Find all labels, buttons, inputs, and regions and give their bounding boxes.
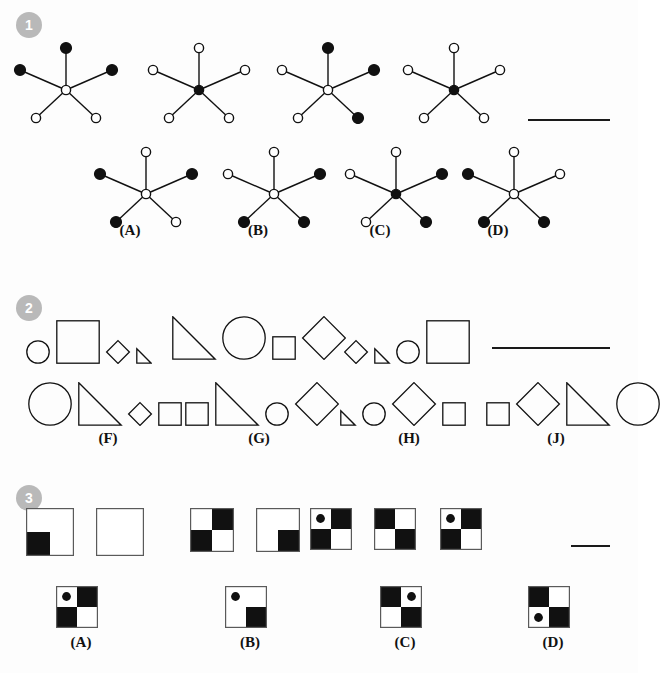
q2-option-g[interactable] bbox=[185, 382, 339, 426]
q1-option-c-label: (C) bbox=[357, 222, 403, 239]
q1-option-b[interactable] bbox=[218, 142, 330, 228]
pair-1-second bbox=[96, 508, 144, 556]
pair-2-first bbox=[190, 508, 234, 552]
q2-option-f[interactable] bbox=[28, 382, 182, 426]
answer-blank-1[interactable] bbox=[528, 119, 610, 121]
q1-option-a[interactable] bbox=[90, 142, 202, 228]
q2-option-j[interactable] bbox=[486, 382, 660, 426]
q3-option-b[interactable] bbox=[225, 586, 267, 628]
shapes-prompt-3 bbox=[344, 320, 470, 364]
answer-blank-2[interactable] bbox=[492, 347, 610, 349]
q2-option-f-label: (F) bbox=[85, 430, 131, 447]
q2-option-j-label: (J) bbox=[533, 430, 579, 447]
pair-3-first bbox=[310, 508, 352, 550]
star-prompt-3 bbox=[272, 38, 384, 124]
q2-option-h-label: (H) bbox=[386, 430, 432, 447]
q1-option-d-label: (D) bbox=[475, 222, 521, 239]
pair-1-first bbox=[26, 508, 74, 556]
star-prompt-2 bbox=[143, 38, 255, 124]
question-badge-1: 1 bbox=[16, 12, 42, 38]
answer-blank-3[interactable] bbox=[571, 545, 610, 547]
q3-option-d-label: (D) bbox=[530, 634, 576, 651]
q3-option-d[interactable] bbox=[528, 586, 570, 628]
q1-option-b-label: (B) bbox=[235, 222, 281, 239]
shapes-prompt-1 bbox=[26, 320, 152, 364]
pair-2-second bbox=[256, 508, 300, 552]
q1-option-c[interactable] bbox=[340, 142, 452, 228]
q3-option-b-label: (B) bbox=[227, 634, 273, 651]
q3-option-c-label: (C) bbox=[382, 634, 428, 651]
star-prompt-4 bbox=[398, 38, 510, 124]
q1-option-d[interactable] bbox=[458, 142, 570, 228]
q3-option-a-label: (A) bbox=[58, 634, 104, 651]
q3-option-c[interactable] bbox=[380, 586, 422, 628]
pair-3-second bbox=[374, 508, 416, 550]
star-prompt-1 bbox=[10, 38, 122, 124]
shapes-prompt-2 bbox=[172, 316, 346, 360]
q1-option-a-label: (A) bbox=[107, 222, 153, 239]
pair-4-first bbox=[440, 508, 482, 550]
q2-option-g-label: (G) bbox=[236, 430, 282, 447]
question-badge-2: 2 bbox=[16, 295, 42, 321]
q3-option-a[interactable] bbox=[56, 586, 98, 628]
q2-option-h[interactable] bbox=[340, 382, 466, 426]
